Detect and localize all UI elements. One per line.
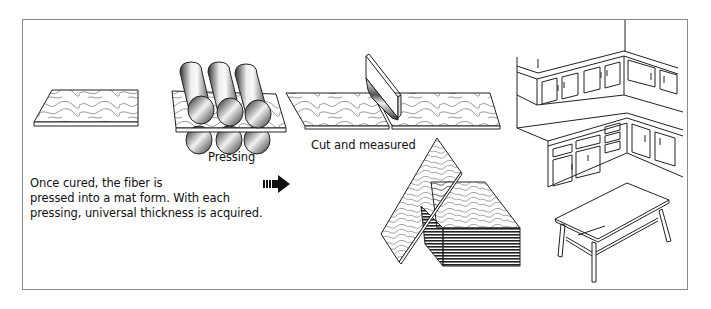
stacked-boards — [381, 138, 520, 266]
cured-mat — [34, 90, 138, 126]
cut-boards — [286, 54, 500, 129]
roller-icon — [180, 62, 271, 128]
pressing-label: Pressing — [208, 150, 255, 165]
table-icon — [555, 183, 671, 282]
pressing-rollers — [172, 62, 286, 154]
process-description: Once cured, the fiber is pressed into a … — [30, 176, 280, 221]
description-line-3: pressing, universal thickness is acquire… — [30, 206, 280, 221]
kitchen-cabinets-icon — [517, 20, 683, 187]
description-line-1: Once cured, the fiber is — [30, 176, 280, 191]
description-line-2: pressed into a mat form. With each — [30, 191, 280, 206]
process-illustration — [0, 0, 711, 309]
cut-label: Cut and measured — [311, 138, 416, 153]
